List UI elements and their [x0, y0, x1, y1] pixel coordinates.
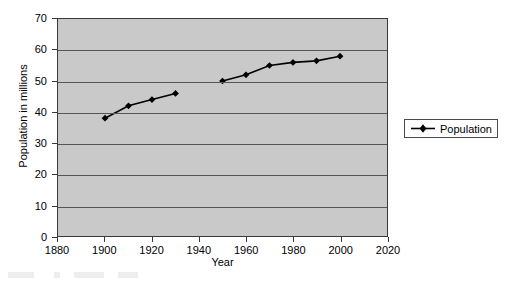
y-tick-label-50: 50 [35, 75, 47, 87]
x-tick-label-1920: 1920 [139, 244, 163, 256]
x-tick-label-1940: 1940 [187, 244, 211, 256]
y-tick-label-10: 10 [35, 200, 47, 212]
x-tick-mark-1900 [104, 237, 105, 242]
y-tick-label-30: 30 [35, 137, 47, 149]
x-tick-label-1880: 1880 [45, 244, 69, 256]
series-population [58, 19, 387, 236]
series-line-segment-0 [105, 93, 176, 118]
data-point-1970 [266, 62, 273, 69]
chart-screenshot: Population in millions 010203040506070 1… [0, 0, 510, 285]
legend-label-population: Population [440, 123, 492, 135]
chart-legend: Population [404, 119, 498, 138]
gridline-y-10 [58, 207, 387, 208]
x-tick-label-1900: 1900 [92, 244, 116, 256]
gridline-y-20 [58, 175, 387, 176]
x-tick-mark-1920 [152, 237, 153, 242]
x-tick-mark-2000 [341, 237, 342, 242]
diamond-marker-icon [410, 123, 436, 134]
gridline-y-40 [58, 113, 387, 114]
y-tick-label-0: 0 [41, 231, 47, 243]
x-axis-title: Year [57, 256, 388, 268]
data-point-1910 [125, 102, 132, 109]
series-line-segment-1 [223, 56, 341, 81]
x-tick-mark-2020 [388, 237, 389, 242]
data-point-1930 [172, 90, 179, 97]
data-point-2000 [337, 53, 344, 60]
y-tick-label-60: 60 [35, 43, 47, 55]
data-point-1920 [149, 96, 156, 103]
y-axis-ticks: 010203040506070 [0, 18, 57, 237]
x-tick-label-1980: 1980 [281, 244, 305, 256]
gridline-y-50 [58, 82, 387, 83]
data-point-1980 [290, 59, 297, 66]
y-tick-label-70: 70 [35, 12, 47, 24]
x-tick-label-1960: 1960 [234, 244, 258, 256]
gridline-y-60 [58, 50, 387, 51]
x-tick-label-2000: 2000 [328, 244, 352, 256]
y-tick-label-20: 20 [35, 168, 47, 180]
x-tick-mark-1960 [246, 237, 247, 242]
y-tick-label-40: 40 [35, 106, 47, 118]
data-point-1960 [243, 71, 250, 78]
x-tick-mark-1980 [293, 237, 294, 242]
x-tick-mark-1940 [199, 237, 200, 242]
plot-area [57, 18, 388, 237]
x-tick-label-2020: 2020 [376, 244, 400, 256]
gridline-y-30 [58, 144, 387, 145]
caption-artifact [8, 272, 138, 278]
x-tick-mark-1880 [57, 237, 58, 242]
data-point-1900 [102, 115, 109, 122]
data-point-1990 [313, 57, 320, 64]
